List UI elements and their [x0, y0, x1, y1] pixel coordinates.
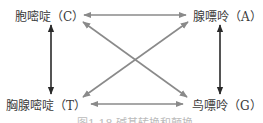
node-thymine: 胸腺嘧啶（T）	[6, 96, 86, 113]
node-adenine: 腺嘌呤（A）	[193, 7, 262, 24]
figure-caption: 图1-18 碱基转换和颠换	[60, 114, 210, 123]
node-guanine: 鸟嘌呤（G）	[192, 96, 262, 113]
node-cytosine: 胞嘧啶（C）	[15, 7, 84, 24]
